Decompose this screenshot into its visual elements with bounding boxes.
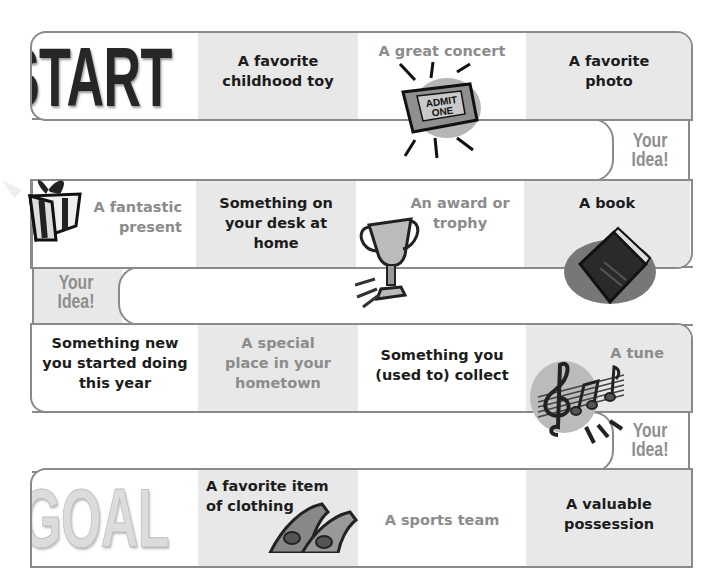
goal-space[interactable]: GOAL — [32, 470, 198, 566]
connector-1-path — [32, 118, 614, 182]
space-sports-team[interactable]: A sports team — [358, 470, 526, 566]
space-valuable-possession[interactable]: A valuablepossession — [526, 470, 692, 566]
your-idea-space-3[interactable]: Your Idea! — [622, 420, 679, 458]
board-row-1: START A favoritechildhood toy A great co… — [30, 31, 693, 121]
space-special-place[interactable]: A specialplace in yourhometown — [198, 325, 358, 411]
space-favorite-childhood-toy[interactable]: A favoritechildhood toy — [198, 33, 358, 119]
start-space[interactable]: START — [32, 33, 198, 119]
connector-3-path — [32, 411, 614, 473]
music-notes-icon — [528, 355, 628, 445]
your-idea-space-1[interactable]: Your Idea! — [622, 130, 679, 168]
shoes-icon — [262, 498, 362, 553]
gift-box-icon — [2, 168, 92, 248]
space-collect[interactable]: Something you(used to) collect — [358, 325, 526, 411]
space-something-new[interactable]: Something newyou started doingthis year — [32, 325, 198, 411]
space-favorite-photo[interactable]: A favoritephoto — [526, 33, 692, 119]
space-desk-at-home[interactable]: Something onyour desk athome — [196, 181, 356, 267]
trophy-icon — [355, 215, 425, 310]
your-idea-space-2[interactable]: Your Idea! — [46, 272, 106, 310]
book-icon — [560, 222, 660, 310]
admit-one-ticket-icon: ADMIT ONE — [385, 62, 495, 162]
